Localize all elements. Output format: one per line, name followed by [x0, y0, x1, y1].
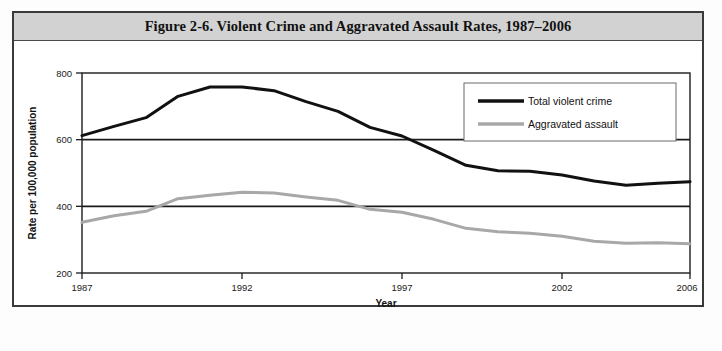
x-tick-label-1997: 1997 — [391, 282, 412, 293]
chart-legend: Total violent crime Aggravated assault — [464, 83, 676, 141]
x-tick-label-1987: 1987 — [71, 282, 92, 293]
line-chart: 800 600 400 200 Rate per 100,000 populat… — [14, 41, 702, 307]
x-tick-label-2006: 2006 — [676, 282, 697, 293]
y-tick-label-400: 400 — [56, 201, 72, 212]
y-axis-title: Rate per 100,000 population — [27, 107, 38, 240]
page-title: Figure 2-6. Violent Crime and Aggravated… — [145, 18, 572, 35]
x-axis-title: Year — [375, 298, 396, 307]
legend-label-total-violent-crime: Total violent crime — [528, 95, 612, 107]
y-tick-label-600: 600 — [56, 134, 72, 145]
x-tick-label-2002: 2002 — [551, 282, 572, 293]
figure-container: Figure 2-6. Violent Crime and Aggravated… — [12, 11, 704, 307]
y-tick-label-200: 200 — [56, 268, 72, 279]
x-tick-label-1992: 1992 — [231, 282, 252, 293]
y-axis-ticks — [76, 73, 82, 273]
legend-box — [464, 83, 676, 141]
y-tick-label-800: 800 — [56, 68, 72, 79]
legend-label-aggravated-assault: Aggravated assault — [528, 118, 618, 130]
chart-area: 800 600 400 200 Rate per 100,000 populat… — [14, 41, 702, 307]
figure-page: Figure 2-6. Violent Crime and Aggravated… — [0, 0, 722, 351]
x-axis-ticks — [82, 273, 690, 279]
figure-title-band: Figure 2-6. Violent Crime and Aggravated… — [14, 13, 702, 41]
